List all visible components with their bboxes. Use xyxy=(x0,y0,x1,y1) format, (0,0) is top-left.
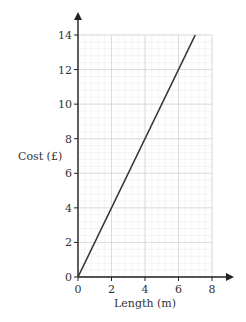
x-tick-label: 2 xyxy=(108,283,115,296)
y-tick-label: 0 xyxy=(65,271,72,284)
x-axis-label: Length (m) xyxy=(114,297,176,310)
y-axis-label: Cost (£) xyxy=(18,150,62,163)
y-tick-label: 10 xyxy=(58,98,72,111)
y-tick-label: 6 xyxy=(65,167,72,180)
x-tick-label: 8 xyxy=(209,283,216,296)
line-chart: 0246802468101214 Cost (£) Length (m) xyxy=(0,0,246,322)
x-tick-label: 6 xyxy=(175,283,182,296)
cost-line xyxy=(78,35,195,277)
y-tick-label: 8 xyxy=(65,133,72,146)
x-tick-label: 0 xyxy=(75,283,82,296)
y-tick-label: 14 xyxy=(58,29,72,42)
x-tick-label: 4 xyxy=(142,283,149,296)
data-series xyxy=(78,35,195,277)
y-tick-label: 12 xyxy=(58,64,72,77)
y-tick-label: 2 xyxy=(65,236,72,249)
y-tick-label: 4 xyxy=(65,202,72,215)
